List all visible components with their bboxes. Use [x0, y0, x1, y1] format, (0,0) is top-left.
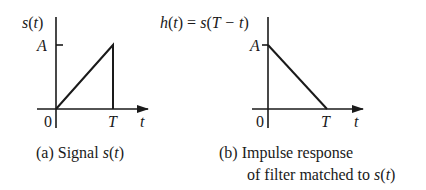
x-axis-label: t	[140, 113, 145, 130]
panel-b-impulse-response: h(t) = s(T − t) A 0 T t (b) Impulse resp…	[160, 14, 395, 184]
caption-b-line1: (b) Impulse response	[219, 144, 353, 162]
x-axis-label: t	[354, 113, 359, 130]
signal-waveform	[56, 45, 113, 109]
y-axis-label: s(t)	[22, 14, 43, 32]
panel-a-signal: s(t) A 0 T t (a) Signal s(t)	[22, 14, 148, 162]
caption-b-line2: of filter matched to s(t)	[247, 166, 395, 184]
matched-filter-figure: s(t) A 0 T t (a) Signal s(t) h(t) = s(T …	[0, 0, 426, 190]
period-label: T	[108, 113, 118, 130]
y-axis-label: h(t) = s(T − t)	[160, 14, 249, 32]
caption-a: (a) Signal s(t)	[36, 144, 124, 162]
origin-label: 0	[256, 113, 264, 130]
amplitude-label: A	[249, 37, 260, 54]
period-label: T	[321, 113, 331, 130]
origin-label: 0	[44, 113, 52, 130]
amplitude-label: A	[36, 37, 47, 54]
impulse-response-waveform	[268, 45, 327, 109]
